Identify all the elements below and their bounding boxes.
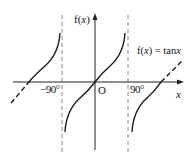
tick-label-neg90: −90° [40, 84, 60, 95]
y-axis-arrow-icon [93, 13, 98, 20]
tan-branch-left [29, 33, 60, 82]
function-label: f(x) = tanx [137, 46, 181, 57]
fn-label-pre: f( [137, 45, 144, 56]
tan-branch-left-dashed [11, 82, 29, 103]
y-label-post: ) [86, 13, 90, 25]
origin-label: O [98, 85, 106, 96]
tick-label-90: 90° [130, 84, 144, 95]
graph-canvas [0, 0, 188, 161]
fn-label-mid: ) = tan [149, 45, 177, 56]
y-axis-label: f(x) [74, 14, 90, 25]
fn-label-var2: x [176, 45, 181, 56]
x-axis-arrow-icon [177, 80, 184, 85]
tan-branch-right-dashed [161, 61, 182, 82]
tan-graph-diagram: f(x) f(x) = tanx −90° O 90° x [0, 0, 188, 161]
x-axis-label: x [176, 89, 181, 100]
